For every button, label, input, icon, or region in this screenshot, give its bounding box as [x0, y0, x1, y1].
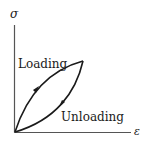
- loading-label: Loading: [18, 58, 67, 70]
- unloading-label: Unloading: [61, 111, 124, 123]
- x-axis-label: ε: [134, 126, 140, 137]
- stress-strain-diagram: σ ε Loading Unloading: [0, 0, 151, 142]
- y-axis-label: σ: [10, 8, 18, 20]
